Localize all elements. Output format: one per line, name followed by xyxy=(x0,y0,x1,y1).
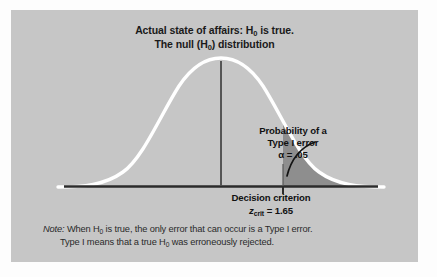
note-line-2: Type I means that a true H0 was erroneou… xyxy=(29,236,409,249)
title-line-1: Actual state of affairs: H0 is true. xyxy=(11,24,418,38)
figure-panel: Actual state of affairs: H0 is true. The… xyxy=(11,10,418,262)
alpha-value: α = .05 xyxy=(223,149,363,161)
z-crit-subscript: crit xyxy=(254,209,264,216)
type-one-error-region xyxy=(283,50,383,186)
title-line-2: The null (H0) distribution xyxy=(11,38,418,52)
note-label: Note: xyxy=(43,224,64,234)
figure-title: Actual state of affairs: H0 is true. The… xyxy=(11,24,418,51)
figure-note: Note: When H0 is true, the only error th… xyxy=(29,223,409,248)
type-one-error-line-1: Probability of a xyxy=(223,125,363,137)
note-line-1: Note: When H0 is true, the only error th… xyxy=(29,223,409,236)
z-crit-value: zcrit = 1.65 xyxy=(191,205,351,218)
decision-criterion-label: Decision criterion xyxy=(191,192,351,205)
decision-criterion-annotation: Decision criterion zcrit = 1.65 xyxy=(191,192,351,217)
type-one-error-line-2: Type I error xyxy=(223,137,363,149)
type-one-error-annotation: Probability of a Type I error α = .05 xyxy=(223,125,363,161)
figure-root: Actual state of affairs: H0 is true. The… xyxy=(0,0,437,277)
